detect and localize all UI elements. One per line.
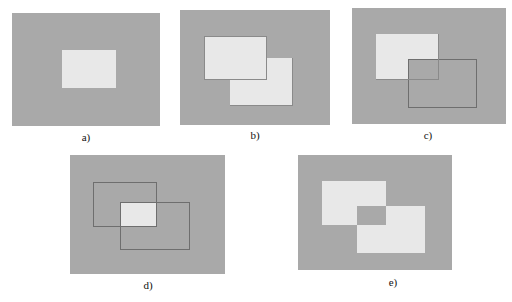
panel-b-rectangle-2-outline: [230, 58, 293, 106]
panel-e-label: e): [389, 276, 398, 288]
panel-a-rectangle: [62, 50, 116, 88]
panel-b-label: b): [250, 129, 259, 141]
panel-c-label: c): [424, 129, 433, 141]
panel-a-label: a): [82, 131, 91, 143]
panel-e-overlap: [357, 206, 386, 225]
panel-c-rectangle-1-outline: [376, 34, 439, 80]
panel-d-rectangle-2-outline: [120, 202, 190, 250]
panel-d-label: d): [143, 279, 152, 291]
